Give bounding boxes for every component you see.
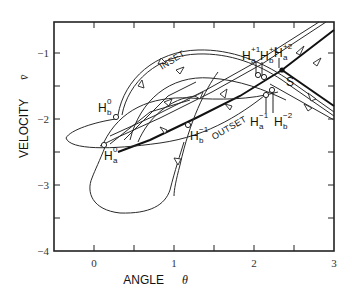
- svg-text:b: b: [107, 108, 112, 117]
- label-hb-minus2: H −2 b: [274, 111, 293, 131]
- y-axis-label: VELOCITY: [17, 99, 31, 158]
- leader-lines: [256, 58, 279, 113]
- point-hb-0: [113, 114, 118, 119]
- svg-text:−1: −1: [259, 111, 269, 120]
- point-ha-minus1: [263, 92, 268, 97]
- label-hb-0: H 0 b: [98, 97, 112, 117]
- x-tick-2: 2: [251, 257, 257, 269]
- y-tick-neg2: −2: [37, 113, 49, 125]
- svg-text:H: H: [190, 129, 199, 143]
- svg-text:−2: −2: [283, 111, 293, 120]
- label-ha-minus1: H −1 a: [250, 111, 269, 131]
- svg-text:H: H: [260, 49, 269, 63]
- x-tick-1: 1: [171, 257, 177, 269]
- svg-text:H: H: [104, 149, 113, 163]
- y-tick-neg4: −4: [37, 245, 49, 257]
- y-tick-neg1: −1: [37, 47, 49, 59]
- saddle-point-s: [279, 67, 284, 72]
- saddle-label: S: [286, 75, 294, 89]
- svg-text:a: a: [251, 56, 256, 65]
- svg-text:a: a: [259, 122, 264, 131]
- svg-text:H: H: [250, 115, 259, 129]
- y-tick-neg3: −3: [37, 179, 49, 191]
- svg-text:0: 0: [113, 145, 118, 154]
- manifold-curves: [66, 22, 334, 213]
- outset-label: OUTSET: [210, 114, 248, 142]
- svg-text:a: a: [113, 156, 118, 165]
- y-axis-symbol: v̄: [17, 74, 31, 80]
- svg-text:H: H: [274, 46, 283, 60]
- svg-text:−1: −1: [199, 125, 209, 134]
- svg-text:H: H: [242, 49, 251, 63]
- x-axis-label: ANGLE: [123, 273, 164, 287]
- x-tick-3: 3: [331, 257, 337, 269]
- svg-text:a: a: [283, 53, 288, 62]
- svg-text:b: b: [199, 136, 204, 145]
- phase-portrait-diagram: 0 1 2 3 −1 −2 −3 −4 ANGLE θ VELOCITY v̄: [0, 0, 352, 298]
- x-axis-symbol: θ: [182, 273, 188, 287]
- svg-text:b: b: [283, 122, 288, 131]
- svg-text:H: H: [98, 101, 107, 115]
- svg-text:0: 0: [107, 97, 112, 106]
- point-hb-minus1: [185, 122, 190, 127]
- point-hb-minus2: [269, 87, 274, 92]
- label-hb-minus1: H −1 b: [190, 125, 209, 145]
- svg-text:H: H: [274, 115, 283, 129]
- svg-text:+2: +2: [283, 42, 293, 51]
- point-ha-0: [101, 142, 106, 147]
- x-tick-0: 0: [91, 257, 97, 269]
